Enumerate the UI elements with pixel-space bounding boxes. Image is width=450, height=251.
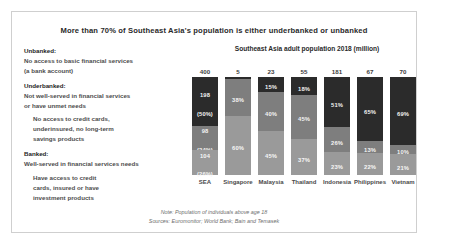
legend-banked-sub2: cards, insured or have [24, 183, 194, 193]
segment-value-label: 65% [364, 109, 376, 115]
bar-column-philippines: 6765%13%22%Philippines [357, 77, 383, 175]
segment-percent-label: (50%) [197, 111, 213, 117]
segment-value-label: 198 [200, 92, 210, 98]
bar-total-label: 70 [390, 68, 416, 75]
segment-percent-label: (26%) [197, 171, 213, 177]
segment-value-label: 15% [265, 84, 277, 90]
bar-segment-under: 45% [291, 95, 317, 139]
legend-banked-line1: Well-served in financial services needs [24, 159, 194, 169]
segment-value-label: 18% [298, 86, 310, 92]
bar-segment-banked: 22% [357, 153, 383, 175]
bar-segment-unbanked: 18% [291, 77, 317, 95]
bar-category-label: Vietnam [381, 179, 425, 185]
legend-underbanked-line1: Not well-served in financial services [24, 91, 194, 101]
bar-column-indonesia: 18151%26%23%Indonesia [324, 77, 350, 175]
bar-segment-under: 10% [390, 145, 416, 155]
bar-total-label: 400 [192, 68, 218, 75]
bar: 69%10%21% [390, 77, 416, 175]
legend-panel: Unbanked: No access to basic financial s… [24, 46, 194, 203]
bar: 51%26%23% [324, 77, 350, 175]
bar: 2%38%60% [225, 77, 251, 175]
legend-underbanked-sub3: savings products [24, 134, 194, 144]
legend-underbanked-sub1: No access to credit cards, [24, 114, 194, 124]
legend-banked-sub1: Have access to credit [24, 173, 194, 183]
legend-underbanked-line2: or have unmet needs [24, 101, 194, 111]
bar-column-thailand: 5518%45%37%Thailand [291, 77, 317, 175]
bar-segment-banked: 23% [324, 152, 350, 175]
headline: More than 70% of Southeast Asia's popula… [12, 26, 416, 35]
bar-total-label: 67 [357, 68, 383, 75]
bar-segment-under: 40% [258, 92, 284, 131]
bar-segment-under: 26% [324, 127, 350, 152]
segment-value-label: 60% [232, 145, 244, 151]
segment-value-label: 45% [298, 116, 310, 122]
segment-value-label: 104 [200, 153, 210, 159]
segment-value-label: 98 [202, 128, 209, 134]
bar-column-malaysia: 2315%40%45%Malaysia [258, 77, 284, 175]
bar-segment-banked: 37% [291, 139, 317, 175]
infographic-card: More than 70% of Southeast Asia's popula… [11, 11, 417, 233]
bar: 18%45%37% [291, 77, 317, 175]
segment-value-label: 51% [331, 102, 343, 108]
chart-footnotes: Note: Population of individuals above ag… [12, 208, 416, 227]
bar-column-singapore: 52%38%60%Singapore [225, 77, 251, 175]
footnote-sources: Sources: Euromonitor; World Bank; Bain a… [12, 217, 416, 226]
bar-segment-banked: 104(26%) [192, 150, 218, 175]
legend-banked-sub3: investment products [24, 193, 194, 203]
segment-value-label: 26% [331, 140, 343, 146]
segment-value-label: 22% [364, 164, 376, 170]
legend-unbanked-title: Unbanked: [24, 46, 194, 56]
segment-value-label: 37% [298, 157, 310, 163]
legend-underbanked-sub2: underinsured, no long-term [24, 124, 194, 134]
stacked-bar-chart: 400198(50%)98(24%)104(26%)SEA52%38%60%Si… [190, 65, 418, 197]
bar-column-sea: 400198(50%)98(24%)104(26%)SEA [192, 77, 218, 175]
segment-value-label: 13% [364, 147, 376, 153]
segment-value-label: 45% [265, 153, 277, 159]
segment-value-label: 23% [331, 164, 343, 170]
legend-unbanked-line2: (a bank account) [24, 66, 194, 76]
bar-segment-banked: 45% [258, 131, 284, 175]
bar-total-label: 23 [258, 68, 284, 75]
bar-column-vietnam: 7069%10%21%Vietnam [390, 77, 416, 175]
bar-segment-unbanked: 69% [390, 77, 416, 145]
chart-title: Southeast Asia adult population 2018 (mi… [198, 45, 416, 52]
legend-underbanked-title: Underbanked: [24, 81, 194, 91]
bar-segment-banked: 21% [390, 154, 416, 175]
segment-value-label: 38% [232, 97, 244, 103]
bar: 15%40%45% [258, 77, 284, 175]
bar-total-label: 181 [324, 68, 350, 75]
bar-segment-unbanked: 15% [258, 77, 284, 92]
bar-total-label: 55 [291, 68, 317, 75]
segment-value-label: 21% [397, 165, 409, 171]
legend-banked-title: Banked: [24, 149, 194, 159]
footnote-note: Note: Population of individuals above ag… [12, 208, 416, 217]
bar-segment-under: 38% [225, 79, 251, 116]
bar-segment-under: 13% [357, 141, 383, 154]
segment-value-label: 69% [397, 111, 409, 117]
legend-unbanked-line1: No access to basic financial services [24, 56, 194, 66]
bar: 198(50%)98(24%)104(26%) [192, 77, 218, 175]
bar-segment-banked: 60% [225, 116, 251, 175]
segment-value-label: 40% [265, 111, 277, 117]
bar: 65%13%22% [357, 77, 383, 175]
bar-segment-unbanked: 65% [357, 77, 383, 141]
bar-segment-unbanked: 51% [324, 77, 350, 127]
